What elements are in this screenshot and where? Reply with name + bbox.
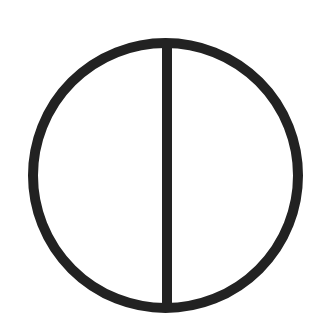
diagram-canvas [0,0,316,319]
